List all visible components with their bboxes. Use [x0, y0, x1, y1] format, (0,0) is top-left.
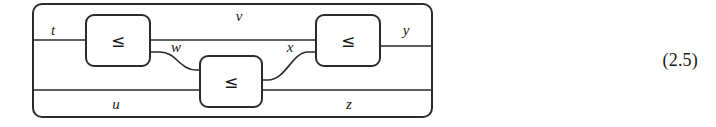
wire-label-y: y — [401, 22, 410, 38]
equation-number: (2.5) — [663, 50, 699, 71]
wire-label-v: v — [236, 8, 243, 24]
wire-label-w: w — [171, 39, 181, 55]
box-middle[interactable]: ≤ — [200, 56, 262, 107]
box-right[interactable]: ≤ — [316, 15, 380, 66]
box-left-label: ≤ — [111, 31, 125, 51]
wire-label-z: z — [345, 96, 352, 112]
box-middle-label: ≤ — [224, 72, 238, 92]
box-left[interactable]: ≤ — [86, 15, 150, 66]
box-right-label: ≤ — [341, 31, 355, 51]
wire-label-x: x — [286, 39, 294, 55]
string-diagram-canvas: ≤ ≤ ≤ t u v w x y z — [0, 0, 716, 127]
wire-label-u: u — [112, 96, 120, 112]
figure-container: ≤ ≤ ≤ t u v w x y z (2.5) — [0, 0, 716, 127]
